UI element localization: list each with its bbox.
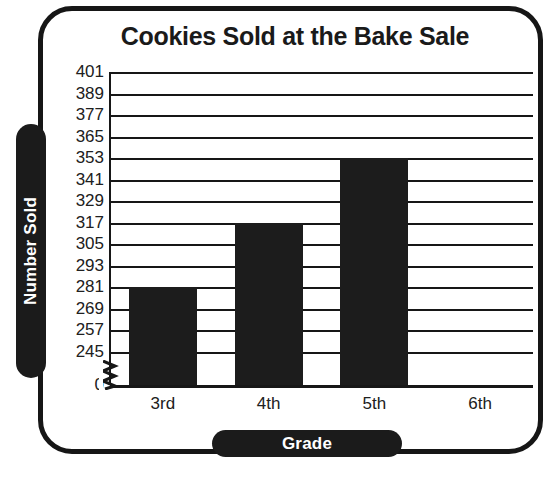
y-axis-tick-label: 257: [58, 321, 104, 338]
bar-5th: [340, 158, 408, 385]
y-axis-tick-label: 377: [58, 106, 104, 123]
gridline: [110, 266, 533, 268]
gridline: [110, 94, 533, 96]
y-axis-tick-label: 365: [58, 128, 104, 145]
y-axis-tick-label: 269: [58, 300, 104, 317]
y-axis-tick-label: 245: [58, 343, 104, 360]
x-axis-label-pill: Grade: [212, 430, 402, 457]
y-axis-tick-label: 341: [58, 171, 104, 188]
gridline: [110, 137, 533, 139]
y-axis-tick-label: 329: [58, 192, 104, 209]
bar-3rd: [129, 287, 197, 385]
gridline: [110, 180, 533, 182]
y-axis-tick-label: 281: [58, 278, 104, 295]
gridline: [110, 201, 533, 203]
axis-baseline: [110, 385, 533, 388]
plot-area: [110, 72, 533, 385]
y-axis-tick-labels: 4013893773653533413293173052932812692572…: [56, 0, 104, 483]
y-axis-label-text: Number Sold: [21, 197, 41, 305]
y-axis-spine: [109, 72, 111, 385]
gridline: [110, 158, 533, 160]
y-axis-tick-label: 389: [58, 85, 104, 102]
y-axis-label-pill: Number Sold: [16, 124, 46, 378]
y-axis-tick-label: 0: [58, 376, 104, 393]
y-axis-tick-label: 353: [58, 149, 104, 166]
y-axis-tick-label: 401: [58, 63, 104, 80]
x-axis-label-text: Grade: [212, 430, 402, 457]
gridline: [110, 72, 533, 74]
bar-4th: [235, 223, 303, 385]
gridline: [110, 223, 533, 225]
gridline: [110, 244, 533, 246]
chart-title: Cookies Sold at the Bake Sale: [60, 22, 530, 51]
x-axis-category-label: 5th: [322, 395, 428, 412]
y-axis-tick-label: 293: [58, 257, 104, 274]
y-axis-tick-label: 317: [58, 214, 104, 231]
gridline: [110, 115, 533, 117]
y-axis-tick-label: 305: [58, 235, 104, 252]
axis-break-zigzag-icon: [99, 360, 121, 390]
x-axis-category-label: 4th: [216, 395, 322, 412]
x-axis-category-label: 6th: [427, 395, 533, 412]
x-axis-category-label: 3rd: [110, 395, 216, 412]
